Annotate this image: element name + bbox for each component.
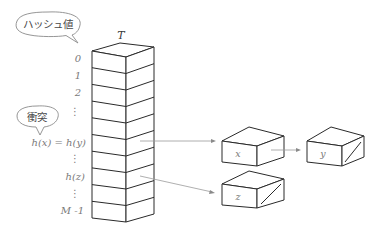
row-label-ellipsis-2: ⋮ xyxy=(70,153,80,164)
row-label-hx-hy: h(x) = h(y) xyxy=(31,137,86,148)
row-label-0: 0 xyxy=(75,53,82,64)
hash-value-bubble: ハッシュ値 xyxy=(16,12,80,43)
collision-bubble: 衝突 xyxy=(17,106,58,135)
collision-bubble-text: 衝突 xyxy=(27,111,48,123)
list-node-x: x xyxy=(222,127,284,166)
row-label-hz: h(z) xyxy=(65,171,85,182)
list-node-z: z xyxy=(222,171,284,208)
row-label-ellipsis-3: ⋮ xyxy=(70,188,80,199)
node-y-label: y xyxy=(319,148,326,159)
list-node-y: y xyxy=(307,127,364,166)
row-label-1: 1 xyxy=(75,70,81,81)
node-x-label: x xyxy=(235,148,241,159)
row-label-ellipsis-1: ⋮ xyxy=(70,106,80,117)
hash-table xyxy=(92,43,154,222)
hash-table-diagram: ハッシュ値 衝突 T 0 1 2 ⋮ h(x) = h xyxy=(0,0,382,239)
hash-value-bubble-text: ハッシュ値 xyxy=(23,18,74,30)
row-label-m-minus-1: M -1 xyxy=(60,205,84,216)
node-z-label: z xyxy=(234,191,241,202)
row-label-2: 2 xyxy=(74,87,81,98)
table-title: T xyxy=(117,29,126,42)
